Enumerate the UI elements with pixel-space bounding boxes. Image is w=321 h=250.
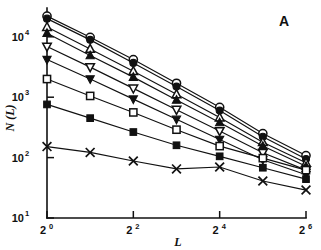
x-tick-label-base: 2 xyxy=(40,224,46,236)
open-square-marker xyxy=(216,143,223,150)
y-axis-title-group: N (L) xyxy=(3,105,17,133)
y-axis-title: N (L) xyxy=(3,105,17,133)
x-tick-label-exponent: 6 xyxy=(308,222,312,231)
y-tick-label-exponent: 2 xyxy=(25,149,29,158)
open-square-marker xyxy=(87,92,94,99)
x-tick-label-base: 2 xyxy=(126,224,132,236)
y-tick-label-exponent: 3 xyxy=(25,88,29,97)
x-axis-title: L xyxy=(173,235,181,249)
x-tick-label-exponent: 2 xyxy=(135,222,139,231)
open-square-marker xyxy=(302,167,309,174)
x-tick-label-base: 2 xyxy=(213,224,219,236)
x-tick-label-base: 2 xyxy=(299,224,305,236)
filled-square-marker xyxy=(87,115,94,122)
y-tick-label-base: 10 xyxy=(12,31,24,43)
filled-square-marker xyxy=(44,101,51,108)
open-square-marker xyxy=(173,126,180,133)
y-tick-label-base: 10 xyxy=(12,91,24,103)
open-square-marker xyxy=(43,75,50,82)
filled-square-marker xyxy=(173,142,180,149)
y-tick-label-exponent: 1 xyxy=(25,209,29,218)
y-tick-label-base: 10 xyxy=(12,212,24,224)
filled-square-marker xyxy=(130,129,137,136)
filled-square-marker xyxy=(303,176,310,183)
filled-square-marker xyxy=(260,164,267,171)
open-square-marker xyxy=(130,109,137,116)
loglog-plot: 101102103104 20222426 N (L) L A xyxy=(0,0,321,250)
filled-circle-marker xyxy=(87,36,94,43)
filled-square-marker xyxy=(216,153,223,160)
figure-root: 101102103104 20222426 N (L) L A xyxy=(0,0,321,250)
x-tick-label-exponent: 0 xyxy=(49,222,53,231)
panel-label: A xyxy=(279,13,289,29)
open-square-marker xyxy=(259,155,266,162)
y-tick-label-base: 10 xyxy=(12,152,24,164)
